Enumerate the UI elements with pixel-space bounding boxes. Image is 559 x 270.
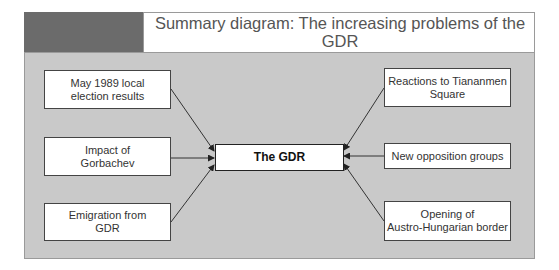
node-tiananmen: Reactions to TiananmenSquare bbox=[384, 68, 511, 107]
node-local-elections: May 1989 localelection results bbox=[44, 70, 171, 109]
node-emigration: Emigration fromGDR bbox=[44, 203, 171, 241]
node-gorbachev: Impact ofGorbachev bbox=[44, 137, 171, 176]
arrow-right-3 bbox=[344, 164, 384, 221]
arrow-left-1 bbox=[171, 89, 214, 151]
node-austro-hungarian-border: Opening ofAustro-Hungarian border bbox=[384, 201, 511, 241]
node-the-gdr: The GDR bbox=[215, 144, 344, 171]
arrow-left-3 bbox=[171, 165, 214, 222]
arrow-right-1 bbox=[344, 88, 384, 150]
node-opposition-groups: New opposition groups bbox=[384, 143, 511, 169]
